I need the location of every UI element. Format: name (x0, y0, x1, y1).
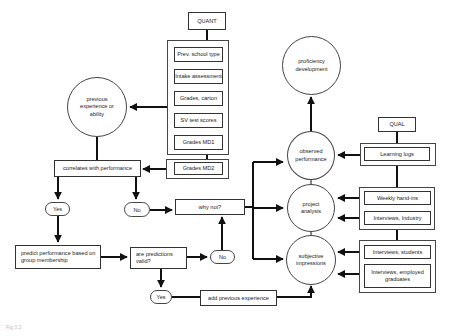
quant-source-box: Prev. school type (174, 47, 223, 62)
previous-experience-node: previous experience or ability (67, 77, 127, 137)
why-not-box: why not? (175, 199, 245, 215)
qual-source-box: Interviews, employed graduates (364, 264, 431, 288)
quant-source-box: Intake assessment (174, 69, 223, 84)
qual-source-box: Weekly hand-ins (364, 191, 431, 205)
quant-source-box: Grades MD1 (174, 135, 223, 150)
proficiency-development-node: proficiency development (282, 36, 341, 95)
observed-performance-node: observed performance (287, 131, 335, 180)
correlates-box: correlates with performance (54, 160, 141, 177)
subjective-impressions-node: subjective impressions (286, 235, 336, 285)
yes-terminal-2: Yes (150, 290, 172, 304)
qual-source-box: Interviews, students (364, 245, 431, 259)
quant-source-box-md2: Grades MD2 (174, 162, 223, 175)
no-terminal-1: No (124, 202, 150, 217)
qual-label-box: QUAL (378, 117, 416, 132)
yes-terminal-1: Yes (45, 202, 70, 216)
qual-source-box: Learning logs (364, 147, 430, 161)
quant-label-box: QUANT (188, 12, 226, 30)
quant-source-box: SV test scores (174, 113, 223, 128)
are-predictions-valid-box: are predictions valid? (130, 247, 187, 269)
project-analysis-node: project analysis (287, 184, 335, 232)
predict-box: predict performance based on group membe… (15, 245, 101, 269)
no-terminal-2: No (210, 250, 235, 264)
quant-source-box: Grades, carton (174, 91, 223, 106)
figure-caption: Fig 3.2 (6, 324, 21, 330)
add-previous-experience-box: add previous experience (200, 290, 277, 306)
qual-source-box: Interviews, Industry (364, 211, 431, 225)
